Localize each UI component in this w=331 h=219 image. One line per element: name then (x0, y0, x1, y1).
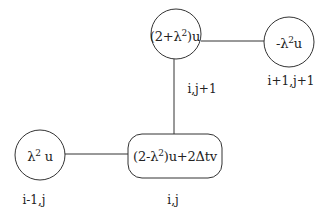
expr-suffix: )u (187, 29, 200, 44)
index-label-top-center: i,j+1 (187, 82, 216, 96)
expr-prefix: (2+λ (150, 29, 182, 44)
stencil-diagram: (2+λ2)u -λ2u λ2 u (2-λ2)u+2Δtv i,j+1 i+1… (0, 0, 331, 219)
node-bottom-center-expression: (2-λ2)u+2Δtv (133, 149, 217, 165)
node-top-right-expression: -λ2u (276, 36, 302, 52)
expr-suffix: u (294, 36, 302, 51)
expr-prefix: λ (27, 149, 35, 164)
index-label-bottom-left: i-1,j (22, 193, 45, 207)
index-label-bottom-center: i,j (167, 193, 178, 207)
expr-suffix: )u+2Δtv (164, 149, 217, 164)
node-top-center-expression: (2+λ2)u (150, 29, 200, 45)
expr-prefix: -λ (276, 36, 288, 51)
index-label-top-right: i+1,j+1 (268, 74, 315, 88)
expr-prefix: (2-λ (133, 149, 158, 164)
expr-suffix: u (41, 149, 53, 164)
node-bottom-left-expression: λ2 u (27, 149, 53, 165)
